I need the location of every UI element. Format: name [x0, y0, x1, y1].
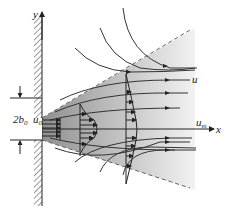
centerline-velocity-label: um — [196, 116, 207, 130]
slot-width-label: 2b0 — [13, 113, 28, 127]
x-axis-label: x — [215, 123, 221, 135]
wall-hatch — [34, 16, 42, 206]
jet-region — [42, 28, 195, 190]
plane-jet-diagram: x um u y 2b0 u0 — [0, 0, 230, 214]
local-velocity-label: u — [192, 73, 198, 85]
y-axis-label: y — [32, 8, 38, 20]
